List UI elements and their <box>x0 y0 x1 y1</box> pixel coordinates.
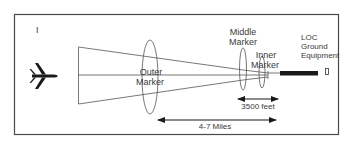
inner-marker-label-line1: Inner <box>256 50 277 60</box>
runway-threshold <box>268 71 280 79</box>
outer-marker-label-line2: Marker <box>136 77 164 87</box>
loc-label-line2: Ground <box>301 42 328 51</box>
middle-marker-label-line2: Marker <box>229 37 257 47</box>
middle-marker-ellipse <box>240 48 247 90</box>
ils-marker-diagram: I Outer Marker Middle Marker Inner Marke… <box>0 0 356 143</box>
outer-marker-label-line1: Outer <box>140 67 163 77</box>
loc-label-line3: Equipment <box>301 51 340 60</box>
panel-label: I <box>36 25 39 35</box>
loc-antenna-icon <box>326 69 329 75</box>
loc-label-line1: LOC <box>301 33 318 42</box>
runway-bar <box>280 71 318 76</box>
airplane-icon <box>30 63 59 89</box>
distance-label-3500ft: 3500 feet <box>241 102 275 111</box>
inner-marker-label-line2: Marker <box>251 60 279 70</box>
distance-label-miles: 4-7 Miles <box>199 122 231 131</box>
middle-marker-label-line1: Middle <box>230 27 257 37</box>
